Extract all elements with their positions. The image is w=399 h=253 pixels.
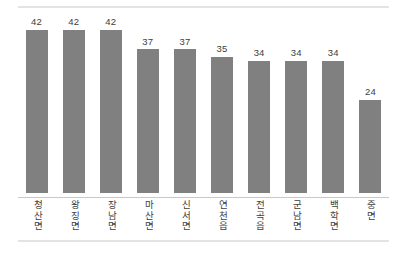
x-tick: 마산면	[129, 200, 166, 232]
x-tick-label: 전곡읍	[253, 200, 265, 232]
bar-series: 42 42 42 37 37 35	[18, 14, 389, 193]
bar-rect[interactable]	[211, 57, 233, 193]
bar-value-label: 37	[142, 37, 153, 47]
bar-group: 42	[55, 14, 92, 193]
x-tick-label: 연천읍	[216, 200, 228, 232]
x-tick-label: 신서면	[179, 200, 191, 232]
bar-rect[interactable]	[63, 30, 85, 193]
x-tick-label: 군남면	[290, 200, 302, 232]
bar-group: 42	[18, 14, 55, 193]
bar-rect[interactable]	[248, 61, 270, 193]
bar-group: 37	[129, 14, 166, 193]
bar-rect[interactable]	[285, 61, 307, 193]
bar-rect[interactable]	[137, 49, 159, 193]
bar-rect[interactable]	[322, 61, 344, 193]
bar-group: 35	[203, 14, 240, 193]
bottom-divider-rule	[18, 240, 389, 242]
bar-group: 34	[241, 14, 278, 193]
x-tick-label: 중면	[364, 200, 376, 221]
x-tick: 청산면	[18, 200, 55, 232]
x-tick-label: 왕징면	[68, 200, 80, 232]
top-divider-rule	[18, 6, 389, 8]
bar-group: 24	[352, 14, 389, 193]
bar-group: 34	[278, 14, 315, 193]
x-tick: 왕징면	[55, 200, 92, 232]
bar-value-label: 42	[31, 17, 42, 27]
x-axis-line	[18, 197, 389, 198]
bar-group: 37	[166, 14, 203, 193]
bar-rect[interactable]	[100, 30, 122, 193]
x-tick: 연천읍	[203, 200, 240, 232]
bar-value-label: 42	[105, 17, 116, 27]
bar-rect[interactable]	[26, 30, 48, 193]
bar-value-label: 42	[68, 17, 79, 27]
bar-chart-figure: 42 42 42 37 37 35	[0, 0, 399, 253]
bar-value-label: 34	[291, 48, 302, 58]
plot-area: 42 42 42 37 37 35	[18, 14, 389, 193]
bar-rect[interactable]	[174, 49, 196, 193]
x-tick: 군남면	[278, 200, 315, 232]
x-tick-label: 마산면	[142, 200, 154, 232]
x-tick: 중면	[352, 200, 389, 221]
bar-value-label: 35	[217, 44, 228, 54]
x-tick: 전곡읍	[241, 200, 278, 232]
bar-value-label: 37	[179, 37, 190, 47]
bar-value-label: 24	[365, 87, 376, 97]
bar-value-label: 34	[254, 48, 265, 58]
x-tick-label: 청산면	[30, 200, 42, 232]
x-tick: 장남면	[92, 200, 129, 232]
bar-group: 34	[315, 14, 352, 193]
x-axis-category-labels: 청산면 왕징면 장남면 마산면 신서면 연천읍 전곡읍 군남면 백학면 중면	[18, 200, 389, 250]
x-tick: 백학면	[315, 200, 352, 232]
bar-rect[interactable]	[359, 100, 381, 193]
x-tick: 신서면	[166, 200, 203, 232]
x-tick-label: 장남면	[105, 200, 117, 232]
bar-group: 42	[92, 14, 129, 193]
bar-value-label: 34	[328, 48, 339, 58]
x-tick-label: 백학면	[327, 200, 339, 232]
